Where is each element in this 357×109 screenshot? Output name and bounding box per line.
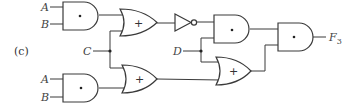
or-gate-3: + xyxy=(216,57,251,85)
wire-or2-or3 xyxy=(157,79,220,80)
and-symbol-dot xyxy=(79,15,82,18)
and-symbol-dot xyxy=(231,29,234,32)
and-gate-1 xyxy=(63,2,98,30)
part-label: (c) xyxy=(14,45,29,58)
logic-circuit-diagram: (c) A B C D A B F3 + xyxy=(0,0,357,109)
and-gate-2 xyxy=(214,15,249,43)
junction-d xyxy=(199,49,202,52)
and-gate-3 xyxy=(278,23,313,51)
input-label-a-bottom: A xyxy=(40,73,49,86)
or-symbol: + xyxy=(229,65,238,78)
wire-or3-and3 xyxy=(251,45,278,71)
input-label-b-top: B xyxy=(40,18,49,31)
and-symbol-dot xyxy=(80,87,83,90)
not-gate xyxy=(175,14,197,31)
or-symbol: + xyxy=(135,73,144,86)
wire-d-and2 xyxy=(201,38,214,51)
input-label-d: D xyxy=(172,45,182,58)
input-label-c: C xyxy=(83,45,92,58)
junction-c xyxy=(108,49,111,52)
and-gate-4 xyxy=(63,74,98,102)
or-symbol: + xyxy=(134,17,143,30)
output-label-f3: F3 xyxy=(328,31,342,46)
or-gate-1: + xyxy=(120,9,157,36)
or-gate-2: + xyxy=(122,65,157,93)
and-symbol-dot xyxy=(293,36,296,39)
input-label-b-bottom: B xyxy=(40,91,49,104)
inversion-bubble xyxy=(191,20,196,25)
input-label-a-top: A xyxy=(40,1,49,14)
